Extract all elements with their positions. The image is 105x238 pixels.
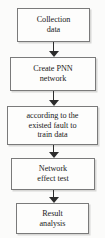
flowchart-node-create-pnn-network[interactable]: Create PNN network	[10, 57, 96, 91]
arrow-stem	[53, 145, 54, 152]
arrow-stem	[53, 91, 54, 100]
flowchart-node-label: Network effect test	[35, 164, 70, 183]
flowchart-arrow-create-pnn-network-to-train-data	[48, 91, 59, 106]
flowchart-node-result-analysis[interactable]: Result analysis	[16, 203, 89, 234]
flowchart-node-collection-data[interactable]: Collection data	[17, 8, 90, 42]
flowchart-node-label: Create PNN network	[31, 64, 74, 83]
flowchart-arrow-collection-data-to-create-pnn-network	[48, 42, 59, 57]
flowchart-arrow-network-effect-test-to-result-analysis	[48, 190, 59, 203]
flowchart-node-network-effect-test[interactable]: Network effect test	[11, 158, 95, 190]
flowchart-node-label: Result analysis	[38, 209, 68, 228]
flowchart-arrow-train-data-to-network-effect-test	[48, 145, 59, 158]
flowchart-node-label: Collection data	[35, 15, 73, 34]
flowchart-node-train-data[interactable]: according to the existed fault to train …	[7, 106, 98, 145]
flowchart-node-label: according to the existed fault to train …	[25, 111, 81, 140]
flowchart-diagram: Collection data Create PNN network accor…	[0, 0, 105, 238]
arrow-stem	[53, 190, 54, 197]
arrow-stem	[53, 42, 54, 51]
